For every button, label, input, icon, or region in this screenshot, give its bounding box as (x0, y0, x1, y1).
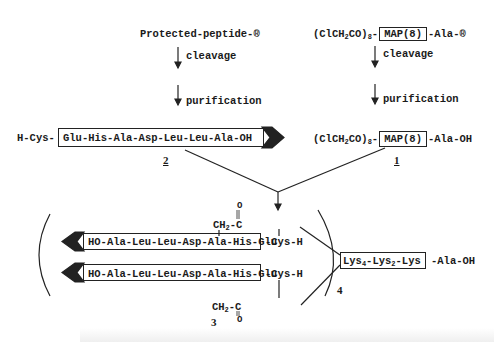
scan-shadow (80, 328, 494, 342)
diagram-lines (0, 0, 494, 342)
